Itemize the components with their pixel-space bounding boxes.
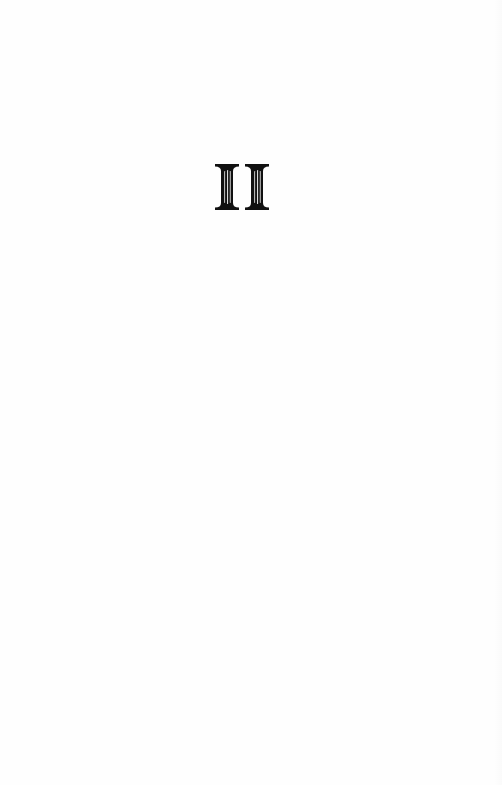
page-edge-shading [494, 0, 502, 785]
roman-numeral-two-glyph [214, 163, 270, 211]
book-page: II [0, 0, 502, 785]
part-numeral: II [214, 163, 270, 211]
